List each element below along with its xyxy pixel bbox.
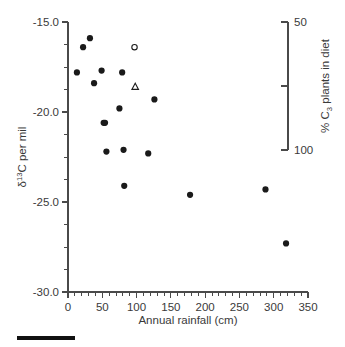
secondary-axis-label-top: 50 xyxy=(294,16,307,28)
data-point-filled-circle xyxy=(187,192,193,198)
data-point-filled-circle xyxy=(283,240,289,246)
data-point-filled-circle xyxy=(116,105,122,111)
svg-text:δ13C per mil: δ13C per mil xyxy=(15,127,28,188)
scale-bar xyxy=(17,336,75,340)
y-tick-label: -15.0 xyxy=(33,16,59,28)
x-axis-title: Annual rainfall (cm) xyxy=(138,314,237,326)
x-tick-label: 0 xyxy=(65,301,71,313)
data-point-filled-circle xyxy=(145,150,151,156)
secondary-axis-title: % C3 plants in diet xyxy=(319,38,334,133)
y-tick-label: -30.0 xyxy=(33,286,59,298)
x-tick-label: 250 xyxy=(230,301,249,313)
data-point-filled-circle xyxy=(120,147,126,153)
x-tick-label: 350 xyxy=(298,301,317,313)
data-point-filled-circle xyxy=(103,149,109,155)
x-tick-label: 150 xyxy=(161,301,180,313)
scatter-plot: -15.0-20.0-25.0-30.0 0501001502002503003… xyxy=(0,0,345,347)
y-tick-label: -25.0 xyxy=(33,196,59,208)
figure-container: -15.0-20.0-25.0-30.0 0501001502002503003… xyxy=(0,0,345,347)
data-point-filled-circle xyxy=(91,80,97,86)
data-point-filled-circle xyxy=(119,69,125,75)
data-point-filled-circle xyxy=(99,68,105,74)
x-tick-label: 100 xyxy=(127,301,146,313)
y-axis-minor-ticks xyxy=(64,45,68,270)
data-point-open-circle xyxy=(132,45,137,50)
y-axis-tick-labels: -15.0-20.0-25.0-30.0 xyxy=(33,16,59,298)
x-axis-major-ticks xyxy=(68,292,308,298)
data-point-filled-circle xyxy=(121,183,127,189)
data-points-group xyxy=(74,35,289,246)
secondary-axis-label-bottom: 100 xyxy=(294,144,313,156)
x-tick-label: 200 xyxy=(196,301,215,313)
data-point-filled-circle xyxy=(151,96,157,102)
secondary-axis-bracket xyxy=(281,22,288,150)
y-axis-title: δ13C per mil xyxy=(15,127,28,188)
data-point-filled-circle xyxy=(80,44,86,50)
data-point-filled-circle xyxy=(102,120,108,126)
data-point-filled-circle xyxy=(87,35,93,41)
x-tick-label: 300 xyxy=(264,301,283,313)
data-point-filled-circle xyxy=(262,186,268,192)
x-axis-tick-labels: 050100150200250300350 xyxy=(65,301,318,313)
x-tick-label: 50 xyxy=(96,301,109,313)
data-point-filled-circle xyxy=(74,69,80,75)
y-tick-label: -20.0 xyxy=(33,106,59,118)
data-point-open-triangle xyxy=(132,83,139,89)
svg-text:% C3 plants in diet: % C3 plants in diet xyxy=(319,38,334,133)
